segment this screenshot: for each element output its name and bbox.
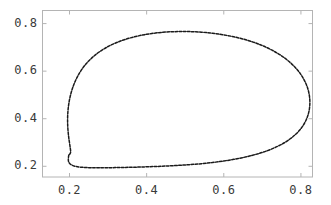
y-tick-label: 0.4 bbox=[14, 111, 37, 125]
data-series-orbit bbox=[68, 32, 310, 168]
x-tick-label: 0.6 bbox=[204, 183, 244, 197]
x-tick-label: 0.2 bbox=[50, 183, 90, 197]
y-tick-label: 0.2 bbox=[14, 158, 37, 172]
orbit-curve bbox=[68, 32, 310, 168]
y-tick-label: 0.6 bbox=[14, 63, 37, 77]
x-tick-label: 0.4 bbox=[127, 183, 167, 197]
phase-plot-figure: 0.2 0.4 0.6 0.8 0.2 0.4 0.6 0.8 bbox=[0, 0, 331, 205]
y-axis-ticks bbox=[43, 24, 313, 167]
x-tick-label: 0.8 bbox=[281, 183, 321, 197]
plot-frame bbox=[43, 11, 313, 178]
plot-canvas bbox=[0, 0, 331, 205]
frame-border bbox=[43, 11, 313, 178]
x-axis-ticks bbox=[70, 11, 301, 178]
y-tick-label: 0.8 bbox=[14, 16, 37, 30]
